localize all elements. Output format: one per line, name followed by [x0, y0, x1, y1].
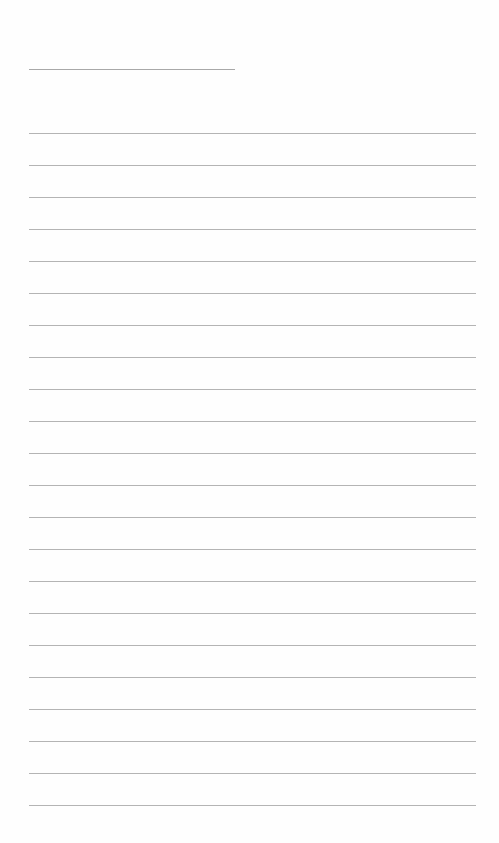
ruled-line	[29, 805, 476, 806]
ruled-line	[29, 197, 476, 198]
ruled-line	[29, 293, 476, 294]
title-line	[29, 69, 235, 70]
ruled-line	[29, 485, 476, 486]
lined-paper-page	[0, 0, 499, 843]
ruled-line	[29, 549, 476, 550]
ruled-line	[29, 421, 476, 422]
ruled-line	[29, 773, 476, 774]
ruled-line	[29, 261, 476, 262]
ruled-line	[29, 229, 476, 230]
ruled-line	[29, 517, 476, 518]
ruled-line	[29, 581, 476, 582]
ruled-line	[29, 133, 476, 134]
ruled-line	[29, 357, 476, 358]
ruled-line	[29, 389, 476, 390]
ruled-line	[29, 677, 476, 678]
ruled-line	[29, 453, 476, 454]
ruled-line	[29, 613, 476, 614]
ruled-line	[29, 709, 476, 710]
ruled-line	[29, 325, 476, 326]
ruled-line	[29, 165, 476, 166]
ruled-line	[29, 741, 476, 742]
ruled-line	[29, 645, 476, 646]
